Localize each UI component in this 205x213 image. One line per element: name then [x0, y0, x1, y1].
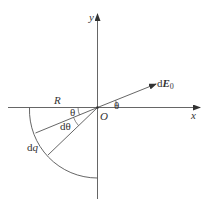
- dtheta-angle-arc: [74, 117, 79, 125]
- diagram-canvas: y x O R θ dθ dq θ dE0: [0, 0, 205, 213]
- field-label-E: E: [162, 77, 170, 89]
- y-axis-label: y: [88, 11, 94, 23]
- dq-label-q: q: [33, 141, 39, 153]
- radius-label: R: [53, 94, 61, 106]
- theta-label-right: θ: [114, 99, 119, 111]
- origin-label: O: [100, 110, 108, 122]
- dtheta-label: dθ: [60, 120, 71, 132]
- charged-arc: [29, 108, 97, 179]
- origin-point: [96, 106, 99, 109]
- x-axis-label: x: [190, 109, 196, 121]
- field-vector-dE0: [98, 84, 157, 108]
- theta-label-left: θ: [70, 106, 75, 118]
- theta-angle-arc-left: [78, 108, 80, 116]
- field-vector-label: dE0: [157, 77, 174, 91]
- field-label-subscript: 0: [170, 82, 174, 91]
- dq-label: dq: [27, 141, 39, 153]
